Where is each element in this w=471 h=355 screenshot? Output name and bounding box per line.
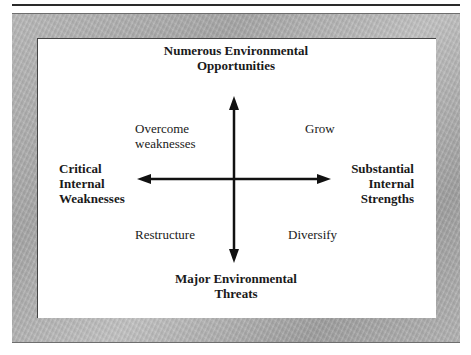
quadrant-bottom-left: Restructure [135,227,225,242]
quadrant-top-right: Grow [305,121,345,136]
axis-label-top-line2: Opportunities [136,58,336,73]
quadrant-top-left-line2: weaknesses [135,136,225,151]
axis-label-right-line3: Strengths [324,191,414,206]
quadrant-bottom-right: Diversify [288,227,348,242]
axis-label-right: Substantial Internal Strengths [324,161,414,206]
axis-label-bottom-line1: Major Environmental [136,271,336,286]
axis-label-right-line2: Internal [324,176,414,191]
axis-label-bottom-line2: Threats [136,286,336,301]
axis-label-left-line2: Internal [59,176,149,191]
axis-label-left-line1: Critical [59,161,149,176]
axis-label-left: Critical Internal Weaknesses [59,161,149,206]
arrow-up-icon [229,96,239,110]
axis-label-bottom: Major Environmental Threats [136,271,336,301]
axis-label-top-line1: Numerous Environmental [136,43,336,58]
axis-label-left-line3: Weaknesses [59,191,149,206]
arrow-down-icon [229,249,239,263]
quadrant-bottom-right-label: Diversify [288,227,348,242]
axis-label-right-line1: Substantial [324,161,414,176]
quadrant-top-right-label: Grow [305,121,345,136]
quadrant-top-left: Overcome weaknesses [135,121,225,151]
quadrant-top-left-line1: Overcome [135,121,225,136]
quadrant-bottom-left-label: Restructure [135,227,225,242]
axis-label-top: Numerous Environmental Opportunities [136,43,336,73]
